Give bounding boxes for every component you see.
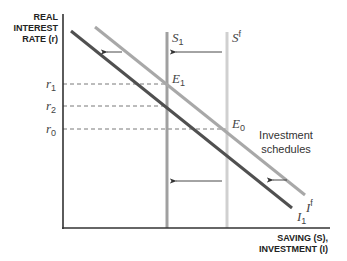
svg-text:schedules: schedules xyxy=(261,143,311,155)
svg-text:r0: r0 xyxy=(46,121,56,138)
svg-text:I1: I1 xyxy=(296,209,306,226)
if-label: If xyxy=(305,198,313,215)
investment-schedules-annotation: Investment schedules xyxy=(259,129,313,155)
saving-investment-diagram: REAL INTEREST RATE (r) r1 r2 r0 S1 Sf E1… xyxy=(0,0,347,261)
svg-text:E0: E0 xyxy=(231,116,245,133)
svg-text:INTEREST: INTEREST xyxy=(13,23,58,33)
svg-text:E1: E1 xyxy=(171,71,185,88)
svg-text:r1: r1 xyxy=(46,76,56,93)
s1-label: S1 xyxy=(172,30,184,47)
r1-label: r1 xyxy=(46,76,56,93)
svg-text:Investment: Investment xyxy=(259,129,313,141)
svg-text:If: If xyxy=(305,198,313,215)
sf-label: Sf xyxy=(232,29,242,45)
svg-text:RATE (r): RATE (r) xyxy=(22,34,58,44)
svg-text:INVESTMENT (I): INVESTMENT (I) xyxy=(259,244,328,254)
svg-text:Sf: Sf xyxy=(232,29,242,45)
r0-label: r0 xyxy=(46,121,56,138)
x-axis-label: SAVING (S), INVESTMENT (I) xyxy=(259,233,328,254)
e0-label: E0 xyxy=(231,116,245,133)
svg-text:REAL: REAL xyxy=(34,12,59,22)
e1-label: E1 xyxy=(171,71,185,88)
r2-label: r2 xyxy=(46,98,56,115)
svg-text:S1: S1 xyxy=(172,30,184,47)
y-axis-label: REAL INTEREST RATE (r) xyxy=(13,12,58,44)
svg-text:SAVING (S),: SAVING (S), xyxy=(277,233,328,243)
i1-label: I1 xyxy=(296,209,306,226)
svg-text:r2: r2 xyxy=(46,98,56,115)
